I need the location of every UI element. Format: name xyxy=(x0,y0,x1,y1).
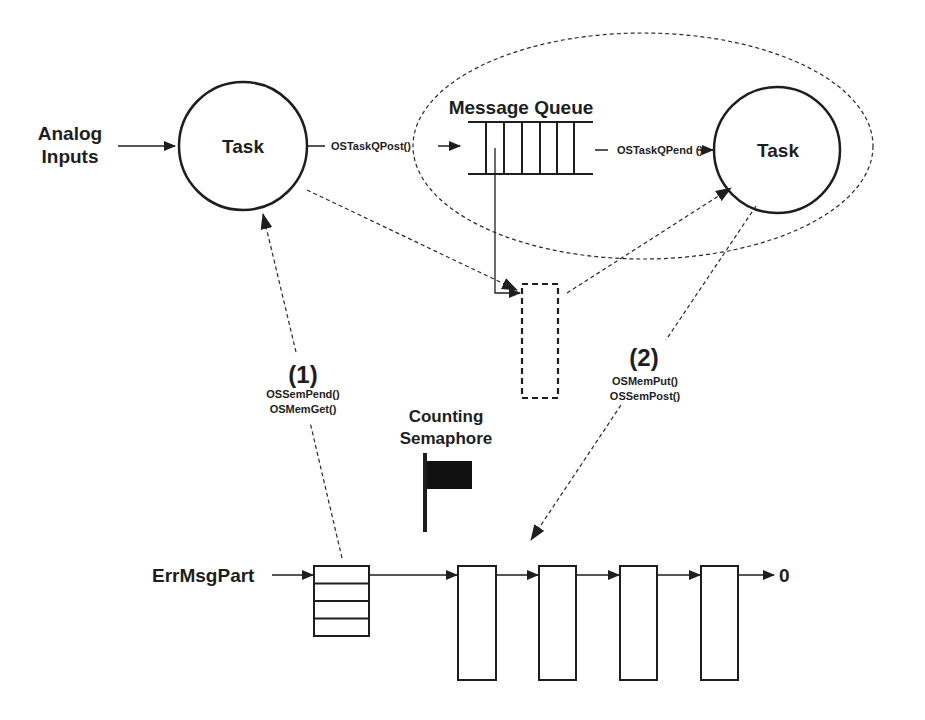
pend-call-label: OSTaskQPend () xyxy=(617,144,703,156)
analog-inputs-line1: Analog xyxy=(38,123,102,144)
flag-icon xyxy=(423,453,472,532)
diagram-canvas: Analog Inputs Task OSTaskQPost() Message… xyxy=(0,0,925,720)
producer-task-node: Task xyxy=(179,82,307,210)
free-block-4 xyxy=(701,566,738,680)
step2-call-sempost: OSSemPost() xyxy=(610,390,681,402)
step1-upper-arrow xyxy=(263,214,296,352)
semaphore-label-line2: Semaphore xyxy=(400,429,493,448)
consumer-task-node: Task xyxy=(714,87,840,213)
counting-semaphore: Counting Semaphore xyxy=(400,407,493,532)
step2-upper-dashed xyxy=(666,206,756,340)
partition-control-block xyxy=(314,566,369,636)
step1-annotation: (1) OSSemPend() OSMemGet() xyxy=(266,361,340,415)
partition-label: ErrMsgPart xyxy=(152,565,255,586)
step2-annotation: (2) OSMemPut() OSSemPost() xyxy=(610,344,681,402)
free-block-2 xyxy=(539,566,576,680)
queue-entry-pointer xyxy=(495,148,520,293)
message-queue-title: Message Queue xyxy=(449,97,594,118)
step2-call-memput: OSMemPut() xyxy=(612,375,678,387)
semaphore-label-line1: Counting xyxy=(409,407,484,426)
free-block-3 xyxy=(620,566,657,680)
step2-number: (2) xyxy=(629,344,658,371)
step2-lower-arrow xyxy=(531,405,621,540)
message-buffer xyxy=(522,284,558,398)
analog-inputs-line2: Inputs xyxy=(42,146,99,167)
null-terminator: 0 xyxy=(779,565,790,586)
producer-task-label: Task xyxy=(222,136,264,157)
consumer-task-label: Task xyxy=(757,140,799,161)
step1-call-sempend: OSSemPend() xyxy=(266,388,340,400)
step1-lower-dashed xyxy=(310,422,342,558)
step1-number: (1) xyxy=(288,361,317,388)
analog-inputs-label: Analog Inputs xyxy=(38,123,102,167)
producer-to-buffer-arrow xyxy=(307,190,517,290)
post-call-label: OSTaskQPost() xyxy=(331,140,411,152)
free-block-1 xyxy=(458,566,496,680)
buffer-to-consumer-arrow xyxy=(567,188,731,293)
step1-call-memget: OSMemGet() xyxy=(270,403,337,415)
message-queue: Message Queue xyxy=(449,97,594,174)
